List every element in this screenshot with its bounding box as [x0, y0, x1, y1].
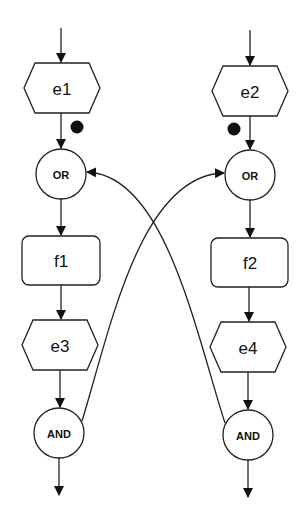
function-f2[interactable]: f2	[211, 238, 288, 287]
connector-and-right[interactable]: AND	[223, 410, 273, 460]
event-e1-label: e1	[53, 80, 72, 99]
edge-and-left-to-or-right	[82, 173, 224, 421]
event-e3-label: e3	[51, 337, 70, 356]
event-e4-label: e4	[239, 339, 258, 358]
function-f1-label: f1	[54, 252, 68, 271]
connector-or-left[interactable]: OR	[36, 149, 86, 199]
event-e2[interactable]: e2	[212, 66, 288, 116]
token-dot-left	[71, 121, 84, 134]
connector-and-right-label: AND	[236, 430, 260, 442]
edge-and-right-to-or-left	[87, 172, 225, 423]
token-dot-right	[228, 123, 241, 136]
function-f2-label: f2	[243, 254, 257, 273]
event-e4[interactable]: e4	[210, 322, 286, 372]
event-e1[interactable]: e1	[24, 63, 100, 113]
connector-or-right[interactable]: OR	[225, 150, 275, 200]
epc-diagram: e1 OR f1 e3 AND e2	[0, 0, 304, 516]
connector-and-left-label: AND	[47, 428, 71, 440]
connector-and-left[interactable]: AND	[34, 408, 84, 458]
event-e2-label: e2	[241, 83, 260, 102]
right-chain: e2 OR f2 e4 AND	[210, 30, 288, 497]
left-chain: e1 OR f1 e3 AND	[22, 28, 100, 495]
function-f1[interactable]: f1	[22, 236, 100, 285]
event-e3[interactable]: e3	[22, 320, 98, 370]
connector-or-right-label: OR	[242, 170, 259, 182]
connector-or-left-label: OR	[53, 169, 70, 181]
